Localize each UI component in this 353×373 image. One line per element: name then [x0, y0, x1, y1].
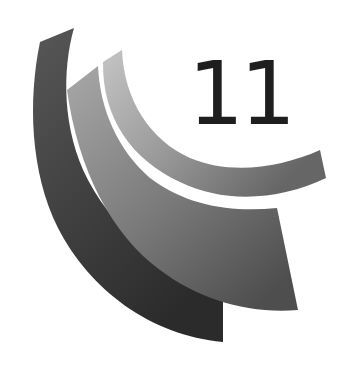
arc-bands-icon	[0, 0, 353, 373]
numbered-arc-badge: 11	[0, 0, 353, 373]
badge-number: 11	[188, 50, 292, 138]
